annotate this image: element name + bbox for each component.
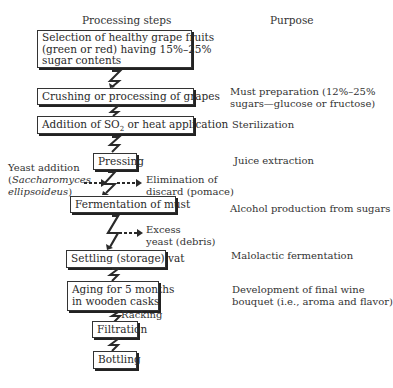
step-text: Addition of SO xyxy=(42,118,120,130)
step-pressing-box: Pressing xyxy=(93,153,137,170)
purpose-must-preparation: Must preparation (12%–25% sugars—glucose… xyxy=(230,86,375,110)
step-settling-box: Settling (storage) vat xyxy=(66,250,166,268)
step-bottling-box: Bottling xyxy=(93,351,137,369)
lightning-arrow-icon xyxy=(106,70,126,88)
lightning-arrow-icon xyxy=(106,339,126,351)
purpose-sterilization: Sterilization xyxy=(232,119,294,131)
note-line: Excess xyxy=(146,224,216,236)
purpose-malolactic-fermentation: Malolactic fermentation xyxy=(231,250,353,262)
step-text-line: Settling (storage) vat xyxy=(71,252,161,265)
note-text-italic: Saccharomyces xyxy=(12,174,91,185)
step-text-line: Crushing or processing of grapes xyxy=(42,90,189,103)
step-so2-box: Addition of SO2 or heat application xyxy=(37,116,194,134)
step-text-line: in wooden casks xyxy=(72,295,154,307)
yeast-addition-note: Yeast addition (Saccharomyces ellipsoide… xyxy=(8,162,91,198)
step-text-line: Aging for 5 months xyxy=(72,283,154,295)
step-text-line: Selection of healthy grape fruits xyxy=(42,32,187,44)
step-fermentation-box: Fermentation of must xyxy=(70,196,176,213)
step-filtration-box: Filtration xyxy=(92,321,138,338)
lightning-arrow-icon xyxy=(106,269,126,281)
pomace-elimination-note: Elimination of discard (pomace) xyxy=(146,174,234,198)
step-selection-box: Selection of healthy grape fruits (green… xyxy=(37,30,192,68)
purpose-bouquet-development: Development of final wine bouquet (i.e.,… xyxy=(232,284,393,308)
note-line: yeast (debris) xyxy=(146,236,216,248)
note-text-italic: ellipsoideus xyxy=(8,186,68,197)
step-text-line: Bottling xyxy=(98,353,132,366)
lightning-arrow-icon xyxy=(106,106,126,116)
purpose-line: Juice extraction xyxy=(234,155,314,167)
step-text-line: Fermentation of must xyxy=(75,198,171,211)
lightning-arrow-icon xyxy=(106,136,126,153)
purpose-line: Development of final wine xyxy=(232,284,393,296)
purpose-line: Must preparation (12%–25% xyxy=(230,86,375,98)
note-line: Elimination of xyxy=(146,174,234,186)
step-crushing-box: Crushing or processing of grapes xyxy=(37,88,194,105)
purpose-line: bouquet (i.e., aroma and flavor) xyxy=(232,296,393,308)
purpose-alcohol-production: Alcohol production from sugars xyxy=(230,203,390,215)
processing-steps-header: Processing steps xyxy=(82,14,171,26)
excess-yeast-note: Excess yeast (debris) xyxy=(146,224,216,248)
lightning-arrow-with-branches-icon xyxy=(84,171,146,196)
purpose-juice-extraction: Juice extraction xyxy=(234,155,314,167)
racking-note: Racking xyxy=(121,309,162,321)
step-aging-box: Aging for 5 months in wooden casks xyxy=(67,281,159,311)
purpose-line: Malolactic fermentation xyxy=(231,250,353,262)
purpose-header: Purpose xyxy=(270,14,314,26)
lightning-arrow-with-branch-icon xyxy=(104,215,148,251)
purpose-line: Sterilization xyxy=(232,119,294,131)
step-text-line: sugar contents xyxy=(42,55,187,67)
step-text-line: Filtration xyxy=(97,323,133,336)
step-text: or heat application xyxy=(124,118,228,130)
purpose-line: Alcohol production from sugars xyxy=(230,203,390,215)
note-line: Yeast addition xyxy=(8,162,91,174)
step-text-line: Pressing xyxy=(98,155,132,168)
purpose-line: sugars—glucose or fructose) xyxy=(230,98,375,110)
